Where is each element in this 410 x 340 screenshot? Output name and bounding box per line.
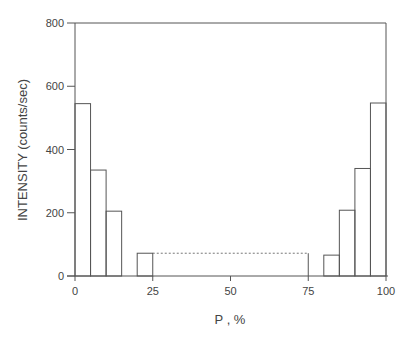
x-axis-label: P , % [215,312,246,327]
y-tick-label: 600 [46,80,64,92]
histogram-bar [75,104,91,276]
histogram-bar [355,168,371,276]
histogram-bar [339,210,355,276]
y-tick-label: 400 [46,144,64,156]
y-axis-ticks: 0200400600800 [46,17,75,282]
plot-frame [67,23,388,276]
x-axis-ticks: 0255075100 [72,276,395,297]
y-tick-label: 0 [58,270,64,282]
y-axis-label: INTENSITY (counts/sec) [15,79,30,221]
x-tick-label: 100 [377,285,395,297]
histogram-bar [91,170,107,276]
bars [75,103,386,276]
x-tick-label: 25 [147,285,159,297]
histogram-bar [106,211,122,276]
histogram-bar [137,253,153,276]
y-tick-label: 800 [46,17,64,29]
histogram-bar [324,255,340,276]
annotations [153,253,309,276]
histogram-bar [370,103,386,276]
y-tick-label: 200 [46,207,64,219]
x-tick-label: 50 [224,285,236,297]
x-tick-label: 75 [302,285,314,297]
histogram-chart: 0255075100 0200400600800 P , % INTENSITY… [0,0,410,340]
x-tick-label: 0 [72,285,78,297]
